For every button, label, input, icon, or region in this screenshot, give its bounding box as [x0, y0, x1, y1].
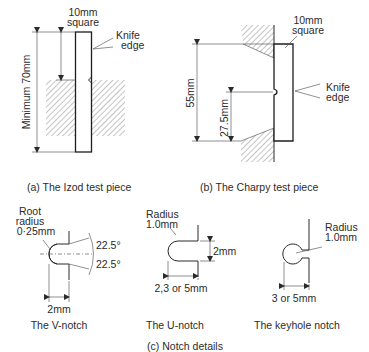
- v-notch-depth-label: 2mm: [47, 303, 71, 315]
- charpy-anvil-lower: [241, 128, 274, 162]
- charpy-half-length-label: 27.5mm: [218, 99, 230, 137]
- keyhole-radius-label-2: 1.0mm: [325, 231, 357, 243]
- izod-size-label-2: square: [67, 16, 99, 28]
- keyhole-caption: The keyhole notch: [254, 319, 340, 331]
- v-notch-caption: The V-notch: [31, 319, 88, 331]
- izod-specimen: [76, 32, 92, 152]
- u-notch-width-label: 2mm: [213, 245, 237, 257]
- izod-vice-right: [92, 80, 125, 136]
- izod-knife-label-2: edge: [121, 39, 145, 51]
- notch-details-caption: (c) Notch details: [147, 340, 223, 352]
- keyhole-depth-label: 3 or 5mm: [272, 292, 317, 304]
- v-notch-detail: Root radius 0·25mm 22.5° 22.5° 2mm The V…: [16, 205, 121, 331]
- keyhole-notch-detail: Radius 1.0mm 3 or 5mm The keyhole notch: [254, 219, 358, 331]
- v-notch-angle-lower: 22.5°: [96, 258, 121, 270]
- charpy-anvil-upper: [241, 25, 274, 58]
- charpy-knife-label-2: edge: [326, 91, 350, 103]
- izod-test-piece: 10mm square Knife edge Minimum 70mm (a) …: [20, 6, 145, 193]
- u-notch-radius-label-2: 1.0mm: [146, 218, 178, 230]
- izod-caption: (a) The Izod test piece: [27, 181, 131, 193]
- u-notch-detail: Radius 1.0mm 2mm 2,3 or 5mm The U-notch: [146, 208, 237, 331]
- u-notch-depth-label: 2,3 or 5mm: [154, 282, 207, 294]
- izod-vice-left: [46, 80, 75, 136]
- charpy-length-label: 55mm: [184, 78, 196, 107]
- charpy-test-piece: 10mm square Knife edge 55mm 27.5mm (b) T…: [184, 14, 350, 193]
- charpy-specimen: [274, 44, 293, 141]
- charpy-size-label-2: square: [292, 24, 324, 36]
- charpy-caption: (b) The Charpy test piece: [200, 181, 318, 193]
- impact-test-diagram: 10mm square Knife edge Minimum 70mm (a) …: [0, 0, 369, 352]
- v-notch-radius-label-3: 0·25mm: [17, 225, 56, 237]
- izod-length-label: Minimum 70mm: [20, 54, 32, 129]
- u-notch-caption: The U-notch: [146, 319, 204, 331]
- v-notch-angle-upper: 22.5°: [96, 239, 121, 251]
